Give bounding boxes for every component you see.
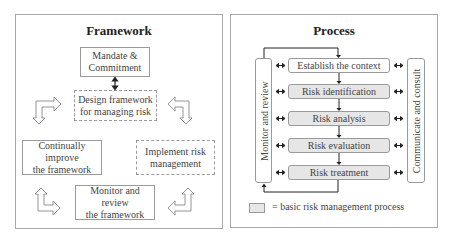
legend-text: = basic risk management process: [272, 201, 404, 212]
loop-bottom-line: [264, 180, 338, 192]
loop-top-line: [264, 48, 338, 58]
left-double-arrows: [276, 64, 285, 175]
down-arrow-heads: [262, 55, 342, 187]
legend-swatch: [249, 203, 265, 213]
right-double-arrows: [394, 64, 403, 175]
